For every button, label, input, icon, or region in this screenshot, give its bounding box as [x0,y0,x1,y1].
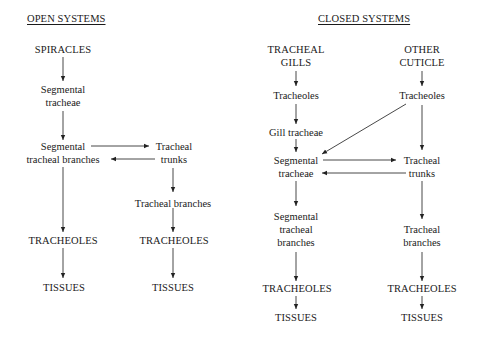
line: Segmental [26,140,99,153]
line: branches [403,236,440,249]
tracheal-systems-diagram: OPEN SYSTEMS SPIRACLES Segmental trachea… [0,0,477,337]
node-spiracles: SPIRACLES [35,43,91,56]
node-tracheal-trunks: Tracheal trunks [156,140,192,166]
line: branches [274,236,318,249]
node-other-cuticle: OTHER CUTICLE [399,43,444,69]
open-systems-heading: OPEN SYSTEMS [27,12,106,25]
node-tracheoles-open-right: TRACHEOLES [139,234,208,247]
node-tracheoles-other: Tracheoles [399,89,445,102]
node-tissues-open-left: TISSUES [43,281,85,294]
node-tissues-open-right: TISSUES [152,281,194,294]
closed-systems-heading: CLOSED SYSTEMS [318,12,410,25]
node-tracheoles-gill: Tracheoles [273,89,319,102]
line: tracheal branches [26,153,99,166]
node-tracheoles-closed-left: TRACHEOLES [262,282,331,295]
node-tracheoles-open-left: TRACHEOLES [28,234,97,247]
line: tracheae [274,167,318,180]
line: Tracheal [403,223,440,236]
node-segmental-tracheal-branches-closed: Segmental tracheal branches [274,210,318,249]
line: Segmental [274,154,318,167]
node-tracheal-gills: TRACHEAL GILLS [268,43,325,69]
line: OTHER [399,43,444,56]
line: TRACHEAL [268,43,325,56]
node-segmental-tracheae-closed: Segmental tracheae [274,154,318,180]
line: Segmental [274,210,318,223]
node-tracheal-trunks-closed: Tracheal trunks [404,154,440,180]
line: tracheae [41,96,85,109]
line: Segmental [41,83,85,96]
line: tracheal [274,223,318,236]
node-segmental-tracheae: Segmental tracheae [41,83,85,109]
line: CUTICLE [399,56,444,69]
node-tissues-closed-right: TISSUES [401,311,443,324]
line: trunks [156,153,192,166]
node-tissues-closed-left: TISSUES [275,311,317,324]
node-tracheal-branches-closed: Tracheal branches [403,223,440,249]
node-tracheal-branches: Tracheal branches [135,197,211,210]
node-segmental-tracheal-branches: Segmental tracheal branches [26,140,99,166]
node-tracheoles-closed-right: TRACHEOLES [387,282,456,295]
line: GILLS [268,56,325,69]
node-gill-tracheae: Gill tracheae [269,126,323,139]
line: trunks [404,167,440,180]
line: Tracheal [404,154,440,167]
line: Tracheal [156,140,192,153]
